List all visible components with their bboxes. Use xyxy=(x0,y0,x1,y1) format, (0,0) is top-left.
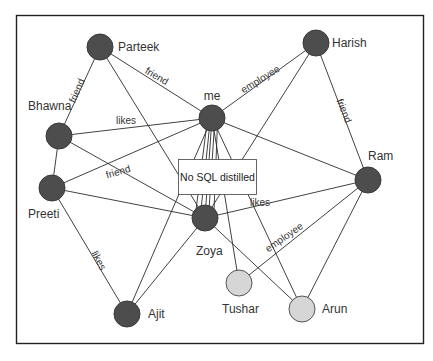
node-label-tushar: Tushar xyxy=(222,302,259,316)
node-label-harish: Harish xyxy=(332,36,367,50)
node-label-zoya: Zoya xyxy=(196,244,223,258)
node-label-preeti: Preeti xyxy=(28,207,59,221)
node-label-parteek: Parteek xyxy=(118,40,160,54)
network-diagram: friendfriendemployeefriendlikesfriendlik… xyxy=(0,0,433,361)
node-label-ajit: Ajit xyxy=(148,307,165,321)
central-box-label: No SQL distilled xyxy=(180,171,255,183)
node-label-arun: Arun xyxy=(322,302,347,316)
node-circle-me[interactable] xyxy=(199,105,225,131)
edge-label-likes: likes xyxy=(116,115,136,126)
node-label-me: me xyxy=(204,89,221,103)
node-circle-ram[interactable] xyxy=(355,167,381,193)
node-circle-ajit[interactable] xyxy=(114,301,140,327)
node-circle-preeti[interactable] xyxy=(39,175,65,201)
node-circle-bhawna[interactable] xyxy=(46,123,72,149)
node-circle-tushar[interactable] xyxy=(226,270,252,296)
node-circle-arun[interactable] xyxy=(289,296,315,322)
central-box: No SQL distilled xyxy=(179,160,257,195)
node-circle-parteek[interactable] xyxy=(87,34,113,60)
edge-label-likes: likes xyxy=(250,197,270,208)
node-label-ram: Ram xyxy=(368,149,393,163)
node-circle-zoya[interactable] xyxy=(192,205,218,231)
node-circle-harish[interactable] xyxy=(303,30,329,56)
node-label-bhawna: Bhawna xyxy=(28,99,72,113)
